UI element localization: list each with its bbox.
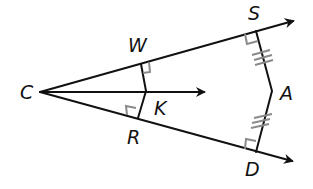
label-c: C — [20, 81, 34, 103]
right-angle-d — [245, 139, 256, 149]
tick-marks-ad — [251, 114, 272, 128]
geometry-diagram: C W K R S A D — [0, 0, 313, 189]
right-angle-s — [245, 34, 258, 44]
label-r: R — [127, 126, 140, 148]
label-d: D — [245, 158, 260, 180]
right-angle-r — [126, 106, 136, 115]
label-w: W — [128, 34, 148, 56]
label-s: S — [248, 2, 260, 24]
ray-cs — [40, 21, 293, 92]
label-a: A — [278, 82, 293, 104]
tick-marks-sa — [252, 50, 273, 65]
label-k: K — [154, 97, 168, 119]
